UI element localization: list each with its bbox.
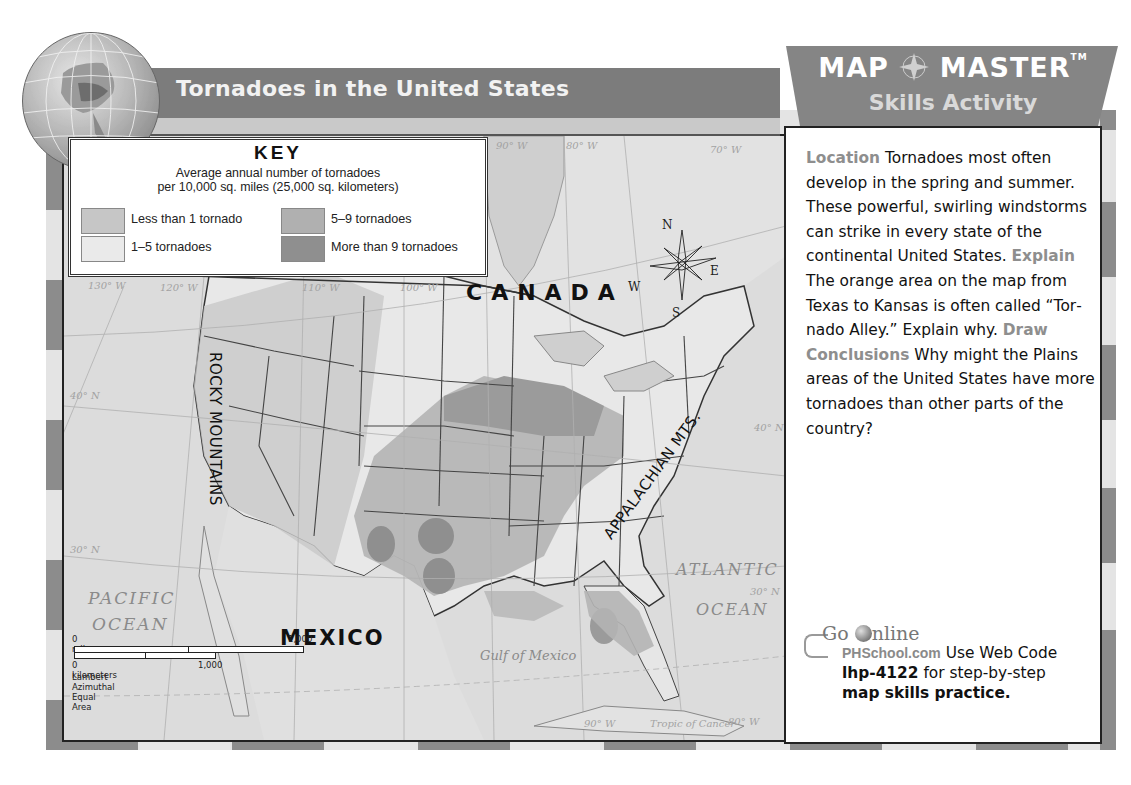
go-online-line-2: lhp-4122 for step-by-step	[842, 664, 1046, 682]
label-atlantic-2: OCEAN	[696, 600, 769, 619]
map-key: KEY Average annual number of tornadoes p…	[68, 137, 488, 277]
label-tropic-of-cancer: Tropic of Cancer	[650, 718, 735, 729]
swatch-5-to-9	[281, 208, 325, 234]
map-master-right: MASTER	[940, 52, 1071, 83]
scale-km-end: 1,000	[198, 660, 222, 670]
key-subtitle-line-2: per 10,000 sq. miles (25,000 sq. kilomet…	[71, 180, 485, 194]
compass-n-label: N	[662, 218, 673, 232]
grid-120w: 120° W	[160, 282, 198, 293]
activity-questions: Location Tornadoes most often develop in…	[806, 146, 1096, 441]
scale-miles-end: 1,000	[288, 634, 312, 644]
grid-90w-top: 90° W	[496, 140, 527, 151]
compass-w-label: W	[628, 280, 640, 294]
phschool-link[interactable]: PHSchool.com	[842, 645, 941, 661]
grid-40n-east: 40° N	[754, 422, 784, 433]
compass-star-icon	[899, 53, 929, 81]
map-master-logo: MAP MASTERTM	[808, 52, 1098, 83]
swatch-more-than-9	[281, 236, 325, 262]
trademark: TM	[1071, 52, 1088, 62]
swatch-1-to-5	[81, 236, 125, 262]
scale-projection: Lambert Azimuthal Equal Area	[72, 672, 115, 712]
grid-30n-west: 30° N	[70, 544, 100, 555]
grid-30n-east: 30° N	[750, 586, 780, 597]
key-label: Less than 1 tornado	[131, 212, 242, 226]
go-online-line-3: map skills practice.	[842, 684, 1011, 702]
key-subtitle-line-1: Average annual number of tornadoes	[71, 166, 485, 180]
key-label: 5–9 tornadoes	[331, 212, 412, 226]
label-gulf-of-mexico: Gulf of Mexico	[480, 648, 576, 663]
key-title: KEY	[71, 142, 485, 164]
title-banner: Tornadoes in the United States	[140, 68, 780, 122]
web-code: lhp-4122	[842, 664, 918, 682]
key-subtitle: Average annual number of tornadoes per 1…	[71, 166, 485, 194]
compass-e-label: E	[710, 264, 719, 278]
swatch-less-than-1	[81, 208, 125, 234]
grid-80w-top: 80° W	[566, 140, 597, 151]
scale-km-bar	[74, 652, 216, 659]
use-web-code-text: Use Web Code	[946, 644, 1058, 662]
grid-40n-west: 40° N	[70, 390, 100, 401]
grid-130w: 130° W	[88, 280, 126, 291]
compass-rose-icon	[644, 222, 720, 308]
grid-80w-bottom: 80° W	[728, 716, 759, 727]
grid-100w: 100° W	[400, 282, 438, 293]
step-by-step-text: for step-by-step	[923, 664, 1045, 682]
key-label: More than 9 tornadoes	[331, 240, 458, 254]
grid-70w: 70° W	[710, 144, 741, 155]
skills-activity-panel: Location Tornadoes most often develop in…	[784, 126, 1102, 744]
page-title: Tornadoes in the United States	[176, 76, 569, 101]
banner-map-strip	[140, 118, 780, 136]
grid-110w: 110° W	[302, 282, 340, 293]
map-master-left: MAP	[818, 52, 889, 83]
go-online-globe-icon	[855, 625, 872, 642]
skills-activity-subtitle: Skills Activity	[808, 90, 1098, 115]
label-pacific-2: OCEAN	[92, 614, 169, 634]
go-online-go: Go	[822, 622, 849, 644]
grid-90w-bottom: 90° W	[584, 718, 615, 729]
go-online-logo[interactable]: Go nline	[822, 622, 920, 644]
label-pacific-1: PACIFIC	[88, 588, 175, 608]
label-rocky-mountains: ROCKY MOUNTAINS	[206, 352, 224, 506]
compass-s-label: S	[672, 306, 680, 320]
keyword-location: Location	[806, 149, 880, 167]
go-online-nline: nline	[872, 622, 920, 644]
label-atlantic-1: ATLANTIC	[676, 560, 779, 579]
go-online-line-1: PHSchool.com Use Web Code	[842, 644, 1057, 662]
label-canada: CANADA	[466, 280, 624, 305]
map-skills-page: N S E W CANADA MEXICO PACIFIC OCEAN ATLA…	[0, 0, 1131, 785]
key-label: 1–5 tornadoes	[131, 240, 212, 254]
keyword-explain: Explain	[1012, 247, 1075, 265]
